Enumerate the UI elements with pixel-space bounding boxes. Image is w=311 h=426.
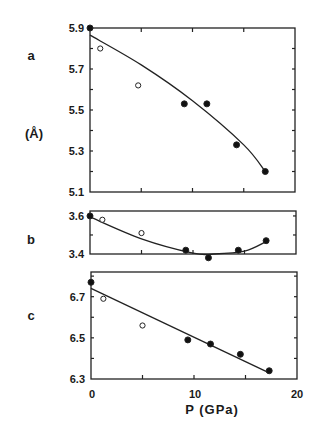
y-tick-label: 5.9 xyxy=(69,22,84,34)
panel-label-a: a xyxy=(27,48,35,63)
open-data-point xyxy=(98,46,103,51)
y-tick-label: 6.5 xyxy=(70,332,85,344)
filled-data-point xyxy=(234,142,240,148)
filled-data-point xyxy=(263,238,269,244)
fit-curve xyxy=(91,288,269,372)
panel-label-b: b xyxy=(27,232,35,247)
filled-data-point xyxy=(204,101,210,107)
y-tick-label: 3.4 xyxy=(69,248,85,260)
filled-data-point xyxy=(207,341,213,347)
filled-data-point xyxy=(262,169,268,175)
panel-c: 6.76.56.3c xyxy=(27,272,297,385)
x-tick-0: 0 xyxy=(89,388,95,400)
open-data-point xyxy=(136,83,141,88)
filled-data-point xyxy=(183,247,189,253)
panel-label-c: c xyxy=(27,308,34,323)
plot-frame xyxy=(91,272,297,379)
open-data-point xyxy=(100,217,105,222)
lattice-parameter-figure: 5.95.75.55.35.1a3.63.4b6.76.56.3c (Å) 0 … xyxy=(0,0,311,426)
filled-data-point xyxy=(235,247,241,253)
y-tick-label: 3.6 xyxy=(69,210,84,222)
open-data-point xyxy=(139,230,144,235)
y-tick-label: 5.1 xyxy=(69,186,84,198)
y-axis-unit-label: (Å) xyxy=(25,126,43,141)
filled-data-point xyxy=(205,255,211,261)
panel-a: 5.95.75.55.35.1a xyxy=(27,22,295,198)
filled-data-point xyxy=(88,279,94,285)
filled-data-point xyxy=(185,337,191,343)
y-tick-label: 5.5 xyxy=(69,104,84,116)
y-tick-label: 6.7 xyxy=(70,291,85,303)
open-data-point xyxy=(140,323,145,328)
filled-data-point xyxy=(237,351,243,357)
open-data-point xyxy=(101,296,106,301)
filled-data-point xyxy=(181,101,187,107)
panel-b: 3.63.4b xyxy=(27,210,296,261)
filled-data-point xyxy=(87,213,93,219)
x-tick-20: 20 xyxy=(291,388,303,400)
fit-curve xyxy=(90,35,265,171)
y-tick-label: 6.3 xyxy=(70,373,85,385)
y-tick-label: 5.3 xyxy=(69,145,84,157)
x-tick-10: 10 xyxy=(189,388,201,400)
y-tick-label: 5.7 xyxy=(69,63,84,75)
plot-frame xyxy=(90,211,296,254)
x-axis-label: P (GPa) xyxy=(185,402,239,417)
filled-data-point xyxy=(87,25,93,31)
filled-data-point xyxy=(266,368,272,374)
